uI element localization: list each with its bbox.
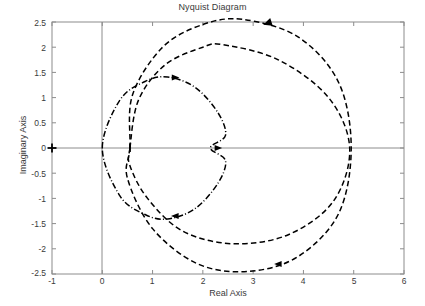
plot-canvas xyxy=(0,0,425,306)
nyquist-markers xyxy=(48,18,282,267)
direction-arrow xyxy=(215,145,223,151)
nyquist-curves xyxy=(102,19,351,272)
nyquist-figure: Nyquist Diagram Real Axis Imaginary Axis… xyxy=(0,0,425,306)
curve-outer-dashed xyxy=(126,19,351,272)
curve-inner-dashed xyxy=(128,44,349,244)
